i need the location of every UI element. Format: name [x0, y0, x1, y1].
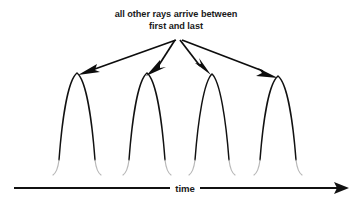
arrow-to-pulse-1-shaft: [92, 40, 176, 70]
annotation-line-1: all other rays arrive between: [115, 9, 238, 19]
pulse-2-curve: [129, 73, 165, 160]
time-axis-label: time: [175, 183, 195, 194]
pulse-2: [123, 73, 171, 175]
pulse-1-right-tail: [95, 160, 101, 175]
annotation-line-2: first and last: [149, 21, 203, 31]
arrow-to-pulse-4-head: [256, 68, 278, 78]
arrow-to-pulse-4: [182, 40, 278, 78]
arrow-to-pulse-1: [78, 40, 176, 75]
pulse-3: [189, 74, 235, 175]
pulse-1-left-tail: [53, 160, 59, 175]
pulse-train-diagram: all other rays arrive between first and …: [0, 0, 360, 213]
arrow-to-pulse-3-head: [195, 58, 211, 75]
pulse-4-curve: [260, 76, 296, 160]
time-axis: time: [14, 182, 349, 194]
annotation-arrow-group: [78, 40, 278, 78]
pulse-3-curve: [195, 74, 229, 160]
pulse-2-right-tail: [165, 160, 171, 175]
pulse-1-curve: [59, 73, 95, 160]
pulse-4-right-tail: [296, 160, 302, 175]
diagram-canvas: all other rays arrive between first and …: [0, 0, 360, 213]
pulse-3-left-tail: [189, 160, 195, 175]
pulse-1: [53, 73, 101, 175]
pulse-3-right-tail: [229, 160, 235, 175]
arrow-to-pulse-4-shaft: [182, 40, 263, 71]
pulse-4: [254, 76, 302, 175]
arrow-to-pulse-1-head: [78, 64, 100, 75]
pulse-4-left-tail: [254, 160, 260, 175]
arrow-to-pulse-2-head: [146, 60, 166, 76]
pulse-2-left-tail: [123, 160, 129, 175]
